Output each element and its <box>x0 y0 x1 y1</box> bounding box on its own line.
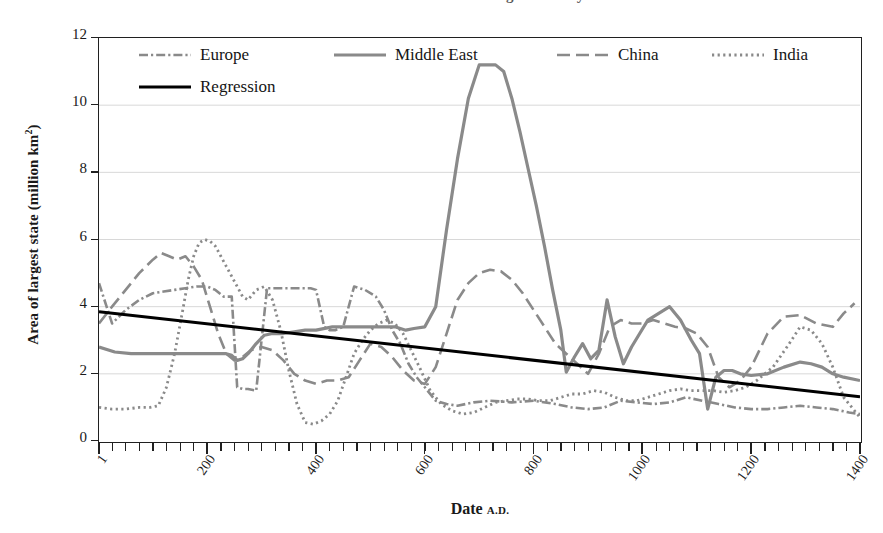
y-tick-label: 12 <box>72 26 87 43</box>
x-minor-tick <box>601 443 602 451</box>
x-minor-tick <box>805 443 806 451</box>
legend-item-china[interactable]: China <box>557 45 659 65</box>
x-minor-tick <box>180 443 181 451</box>
chart-title: The distribution of the area of the larg… <box>0 0 883 4</box>
series-line-india <box>99 240 860 425</box>
x-minor-tick <box>261 443 262 451</box>
y-tick-mark <box>91 37 98 38</box>
x-minor-tick <box>152 443 153 451</box>
chart-title-cropped: The distribution of the area of the larg… <box>0 0 883 14</box>
x-minor-tick <box>193 443 194 451</box>
legend-item-europe[interactable]: Europe <box>139 45 249 65</box>
x-minor-tick <box>397 443 398 451</box>
x-minor-tick <box>370 443 371 451</box>
y-tick-label: 10 <box>72 93 87 110</box>
x-minor-tick <box>656 443 657 451</box>
chart-figure: The distribution of the area of the larg… <box>0 0 883 533</box>
x-minor-tick <box>492 443 493 451</box>
x-minor-tick <box>343 443 344 451</box>
legend-item-regression[interactable]: Regression <box>139 77 276 97</box>
x-minor-tick <box>615 443 616 451</box>
x-axis-title-text: Date <box>451 500 483 517</box>
x-minor-tick <box>846 443 847 451</box>
chart-legend: EuropeMiddle EastChinaIndiaRegression <box>139 45 859 103</box>
y-tick-mark <box>91 104 98 105</box>
dash-dot-line-key <box>139 49 191 61</box>
x-minor-tick <box>710 443 711 451</box>
y-tick-label: 0 <box>80 429 88 446</box>
solid-black-line-key <box>139 81 191 93</box>
x-minor-tick <box>778 443 779 451</box>
x-minor-tick <box>452 443 453 451</box>
x-minor-tick <box>125 443 126 451</box>
x-minor-tick <box>574 443 575 451</box>
x-minor-tick <box>438 443 439 451</box>
x-minor-tick <box>669 443 670 451</box>
x-minor-tick <box>764 443 765 451</box>
x-minor-tick <box>112 443 113 451</box>
x-minor-tick <box>329 443 330 451</box>
x-minor-tick <box>275 443 276 451</box>
x-minor-tick <box>166 443 167 451</box>
x-minor-tick <box>356 443 357 451</box>
series-line-middle-east <box>99 65 860 409</box>
legend-label: Middle East <box>395 45 478 65</box>
legend-label: India <box>773 45 808 65</box>
x-minor-tick <box>465 443 466 451</box>
x-minor-tick <box>724 443 725 451</box>
x-minor-tick <box>588 443 589 451</box>
x-minor-tick <box>683 443 684 451</box>
y-tick-mark <box>91 373 98 374</box>
x-minor-tick <box>506 443 507 451</box>
legend-label: Regression <box>200 77 276 97</box>
series-line-china <box>99 253 855 387</box>
y-tick-mark <box>91 440 98 441</box>
x-minor-tick <box>832 443 833 451</box>
dashed-line-key <box>557 49 609 61</box>
x-minor-tick <box>411 443 412 451</box>
y-tick-label: 6 <box>80 228 88 245</box>
x-minor-tick <box>234 443 235 451</box>
x-minor-tick <box>737 443 738 451</box>
y-tick-mark <box>91 306 98 307</box>
y-tick-label: 4 <box>80 295 88 312</box>
y-axis-title-close: ) <box>25 124 41 129</box>
y-tick-mark <box>91 171 98 172</box>
y-axis-title: Area of largest state (million km2) <box>23 35 42 435</box>
x-minor-tick <box>819 443 820 451</box>
x-minor-tick <box>696 443 697 451</box>
x-minor-tick <box>384 443 385 451</box>
legend-label: China <box>618 45 659 65</box>
x-minor-tick <box>628 443 629 451</box>
y-tick-label: 2 <box>80 362 88 379</box>
x-minor-tick <box>520 443 521 451</box>
y-axis-title-text: Area of largest state (million km <box>25 135 41 345</box>
series-line-europe <box>99 283 860 414</box>
y-tick-label: 8 <box>80 160 88 177</box>
legend-label: Europe <box>200 45 249 65</box>
x-minor-tick <box>139 443 140 451</box>
x-minor-tick <box>248 443 249 451</box>
x-minor-tick <box>792 443 793 451</box>
x-minor-tick <box>479 443 480 451</box>
x-minor-tick <box>560 443 561 451</box>
x-minor-tick <box>302 443 303 451</box>
legend-item-india[interactable]: India <box>712 45 808 65</box>
solid-gray-line-key <box>334 49 386 61</box>
x-minor-tick <box>220 443 221 451</box>
y-tick-mark <box>91 239 98 240</box>
legend-item-middle-east[interactable]: Middle East <box>334 45 478 65</box>
x-minor-tick <box>547 443 548 451</box>
x-axis-title: Date A.D. <box>98 500 862 518</box>
x-minor-tick <box>288 443 289 451</box>
dotted-line-key <box>712 49 764 61</box>
y-axis-title-superscript: 2 <box>23 129 34 134</box>
